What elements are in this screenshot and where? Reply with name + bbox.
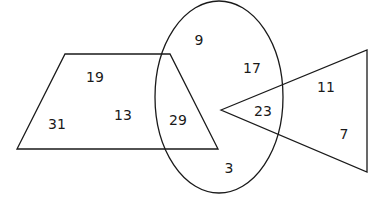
region-number: 3 <box>225 160 234 176</box>
region-number: 31 <box>48 116 66 132</box>
ellipse-shape <box>155 1 283 193</box>
region-number: 9 <box>195 32 204 48</box>
venn-diagram: 19133129917323117 <box>0 0 372 205</box>
trapezoid-shape <box>17 54 218 149</box>
region-number: 17 <box>243 60 261 76</box>
region-number: 13 <box>114 107 132 123</box>
region-number: 11 <box>317 79 335 95</box>
region-number: 19 <box>86 69 104 85</box>
region-number: 29 <box>169 112 187 128</box>
region-number: 7 <box>340 126 349 142</box>
region-number: 23 <box>254 103 272 119</box>
diagram-canvas: 19133129917323117 <box>0 0 372 205</box>
